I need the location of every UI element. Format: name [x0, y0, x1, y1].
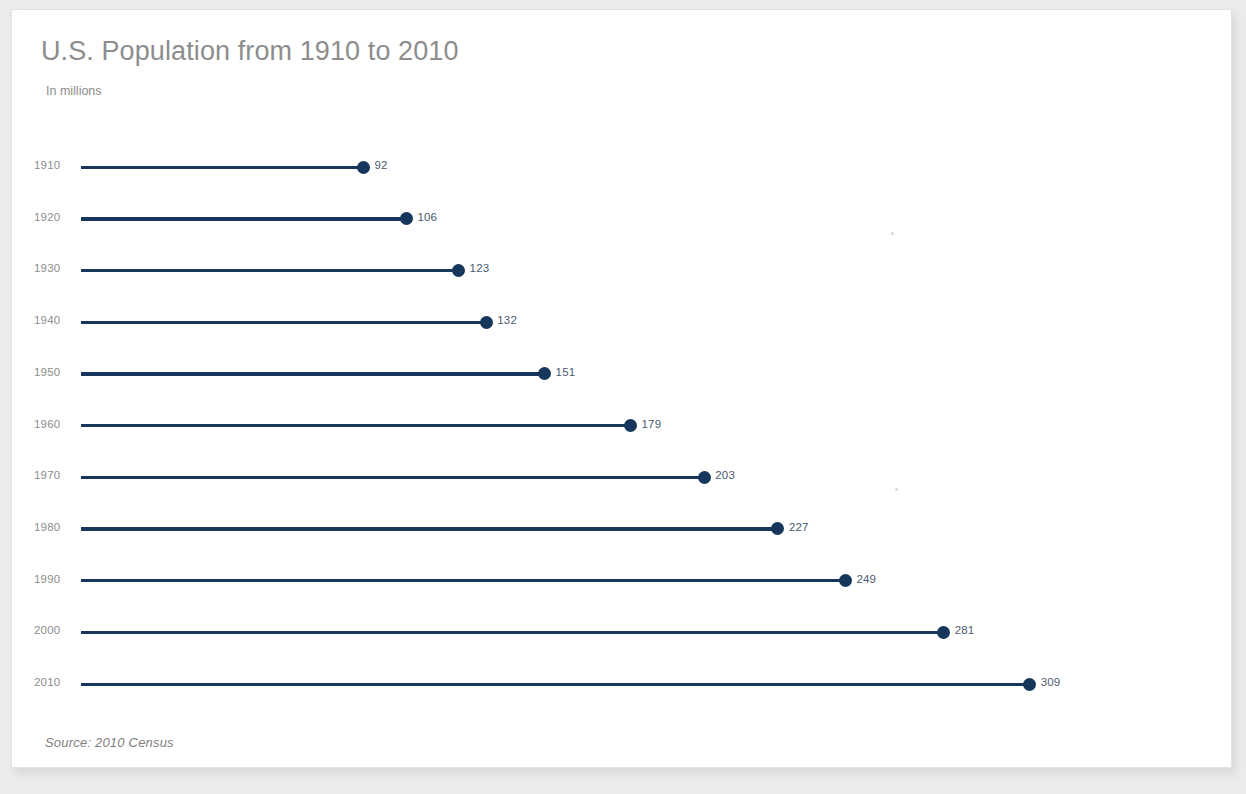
category-label-2010: 2010 — [34, 676, 82, 688]
lollipop-chart-plot: 1910921920106193012319401321950151196017… — [12, 10, 1232, 768]
scan-speck — [891, 232, 894, 235]
chart-row: 2010309 — [12, 673, 1232, 695]
category-label-1920: 1920 — [34, 211, 82, 223]
category-label-1980: 1980 — [34, 521, 82, 533]
category-label-1930: 1930 — [34, 262, 82, 274]
category-label-1990: 1990 — [34, 573, 82, 585]
category-label-2000: 2000 — [34, 624, 82, 636]
lollipop-marker — [480, 316, 493, 329]
lollipop-marker — [624, 419, 637, 432]
category-label-1970: 1970 — [34, 469, 82, 481]
lollipop-stem — [81, 217, 406, 220]
lollipop-stem — [81, 631, 944, 634]
value-label-1970: 203 — [715, 469, 735, 481]
lollipop-marker — [538, 367, 551, 380]
lollipop-stem — [81, 269, 459, 272]
lollipop-stem — [81, 527, 778, 530]
value-label-1960: 179 — [642, 418, 662, 430]
lollipop-marker — [771, 522, 784, 535]
chart-row: 1980227 — [12, 518, 1232, 540]
lollipop-stem — [81, 166, 363, 169]
value-label-1990: 249 — [856, 573, 876, 585]
lollipop-marker — [937, 626, 950, 639]
value-label-1940: 132 — [497, 314, 517, 326]
value-label-1910: 92 — [374, 159, 387, 171]
category-label-1910: 1910 — [34, 159, 82, 171]
chart-row: 1950151 — [12, 363, 1232, 385]
lollipop-stem — [81, 683, 1030, 686]
chart-row: 1930123 — [12, 259, 1232, 281]
value-label-2000: 281 — [955, 624, 975, 636]
chart-row: 1960179 — [12, 415, 1232, 437]
value-label-1930: 123 — [470, 262, 490, 274]
chart-row: 1990249 — [12, 570, 1232, 592]
chart-row: 1920106 — [12, 208, 1232, 230]
lollipop-marker — [839, 574, 852, 587]
lollipop-marker — [698, 471, 711, 484]
chart-row: 2000281 — [12, 621, 1232, 643]
value-label-1920: 106 — [417, 211, 437, 223]
chart-card: U.S. Population from 1910 to 2010 In mil… — [11, 9, 1232, 768]
lollipop-stem — [81, 321, 486, 324]
chart-row: 191092 — [12, 156, 1232, 178]
category-label-1950: 1950 — [34, 366, 82, 378]
value-label-1980: 227 — [789, 521, 809, 533]
lollipop-stem — [81, 476, 704, 479]
category-label-1940: 1940 — [34, 314, 82, 326]
value-label-2010: 309 — [1041, 676, 1061, 688]
category-label-1960: 1960 — [34, 418, 82, 430]
lollipop-stem — [81, 579, 845, 582]
chart-row: 1970203 — [12, 466, 1232, 488]
chart-row: 1940132 — [12, 311, 1232, 333]
scan-speck — [895, 488, 898, 491]
lollipop-marker — [1023, 678, 1036, 691]
lollipop-stem — [81, 372, 545, 375]
value-label-1950: 151 — [556, 366, 576, 378]
lollipop-marker — [400, 212, 413, 225]
lollipop-marker — [452, 264, 465, 277]
page-background: U.S. Population from 1910 to 2010 In mil… — [0, 0, 1246, 794]
chart-source-note: Source: 2010 Census — [45, 735, 174, 750]
lollipop-marker — [357, 161, 370, 174]
lollipop-stem — [81, 424, 631, 427]
